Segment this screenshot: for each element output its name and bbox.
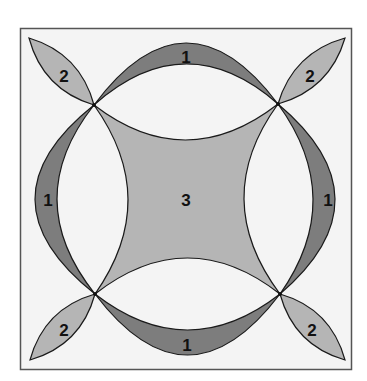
- label-petal-tr: 2: [305, 67, 314, 86]
- curved-square-diagram: 1 1 1 1 2 2 2 2 3: [0, 0, 367, 381]
- label-center: 3: [181, 191, 190, 210]
- crossing-point-tr: [276, 102, 280, 106]
- label-band-left: 1: [43, 191, 52, 210]
- label-petal-br: 2: [307, 321, 316, 340]
- diagram-canvas: 1 1 1 1 2 2 2 2 3: [0, 0, 367, 381]
- label-band-top: 1: [181, 48, 190, 67]
- crossing-point-bl: [93, 292, 97, 296]
- crossing-point-br: [278, 292, 282, 296]
- label-band-bottom: 1: [182, 336, 191, 355]
- crossing-point-tl: [92, 103, 96, 107]
- label-petal-bl: 2: [59, 321, 68, 340]
- label-petal-tl: 2: [59, 67, 68, 86]
- label-band-right: 1: [323, 191, 332, 210]
